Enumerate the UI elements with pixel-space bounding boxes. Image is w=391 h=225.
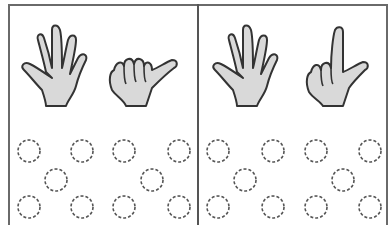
open-hand-icon [22, 26, 86, 107]
left-panel [18, 26, 190, 219]
dashed-circles-right [207, 140, 381, 218]
right-panel [207, 26, 381, 219]
index-thumb-hand-icon [307, 27, 368, 106]
thumb-hand-icon [110, 59, 177, 106]
worksheet-art [0, 0, 391, 225]
open-hand-icon [213, 26, 277, 107]
dashed-circles-left [18, 140, 190, 218]
